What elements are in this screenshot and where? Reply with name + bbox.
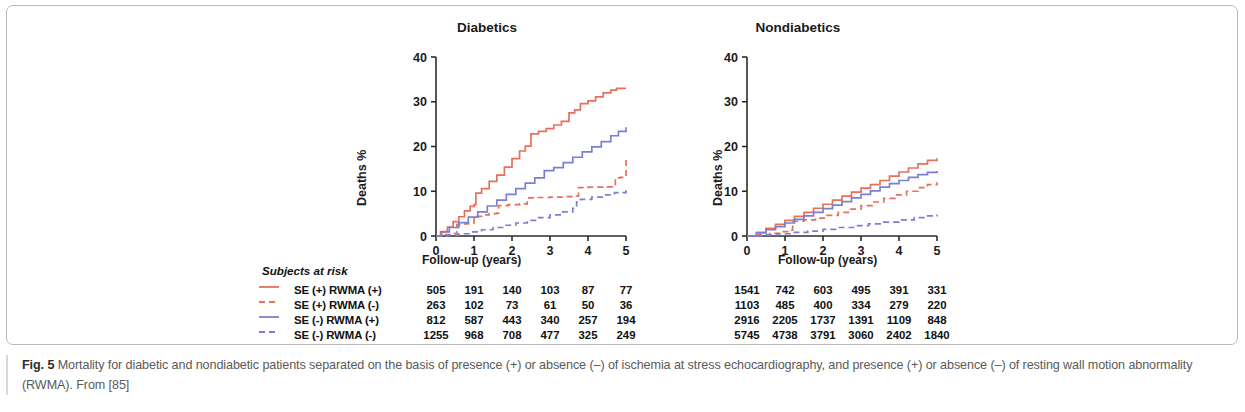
svg-text:30: 30 — [724, 95, 738, 109]
risk-table-header: Subjects at risk — [262, 264, 348, 277]
figure-panel: Diabetics 010203040012345 Deaths % Follo… — [6, 5, 1238, 345]
chart-panel-diabetics: Diabetics 010203040012345 Deaths % Follo… — [337, 6, 637, 276]
risk-count-cell: 220 — [915, 299, 959, 311]
svg-text:4: 4 — [896, 244, 903, 258]
svg-text:3: 3 — [547, 244, 554, 258]
svg-text:5: 5 — [623, 244, 630, 258]
risk-count-cell: 36 — [604, 299, 648, 311]
risk-count-cell: 194 — [604, 314, 648, 326]
plot-area-diabetics: 010203040012345 — [337, 6, 637, 276]
chart-panel-nondiabetics: Nondiabetics 010203040012345 Deaths % Fo… — [648, 6, 948, 276]
risk-row-label: SE (-) RWMA (-) — [294, 329, 376, 341]
caption-label: Fig. 5 — [22, 358, 54, 372]
svg-text:30: 30 — [413, 95, 427, 109]
risk-row-label: SE (-) RWMA (+) — [294, 314, 379, 326]
svg-text:10: 10 — [413, 185, 427, 199]
risk-count-cell: 249 — [604, 329, 648, 341]
svg-text:40: 40 — [724, 51, 738, 65]
svg-text:4: 4 — [585, 244, 592, 258]
risk-count-cell: 331 — [915, 284, 959, 296]
svg-text:20: 20 — [413, 140, 427, 154]
svg-text:5: 5 — [934, 244, 941, 258]
caption-text: Mortality for diabetic and nondiabetic p… — [22, 358, 1192, 392]
svg-text:20: 20 — [724, 140, 738, 154]
x-axis-label-nondiabetics: Follow-up (years) — [778, 253, 877, 267]
figure-caption: Fig. 5 Mortality for diabetic and nondia… — [6, 355, 1234, 395]
svg-text:0: 0 — [420, 230, 427, 244]
legend-line-swatches — [257, 282, 287, 344]
risk-row-label: SE (+) RWMA (-) — [294, 299, 379, 311]
risk-count-cell: 1840 — [915, 329, 959, 341]
risk-count-cell: 848 — [915, 314, 959, 326]
y-axis-label-nondiabetics: Deaths % — [711, 150, 725, 206]
y-axis-label-diabetics: Deaths % — [355, 150, 369, 206]
x-axis-label-diabetics: Follow-up (years) — [422, 253, 521, 267]
risk-count-cell: 77 — [604, 284, 648, 296]
svg-text:0: 0 — [731, 230, 738, 244]
svg-text:0: 0 — [744, 244, 751, 258]
plot-area-nondiabetics: 010203040012345 — [648, 6, 948, 276]
risk-row-label: SE (+) RWMA (+) — [294, 284, 382, 296]
svg-text:40: 40 — [413, 51, 427, 65]
svg-text:10: 10 — [724, 185, 738, 199]
